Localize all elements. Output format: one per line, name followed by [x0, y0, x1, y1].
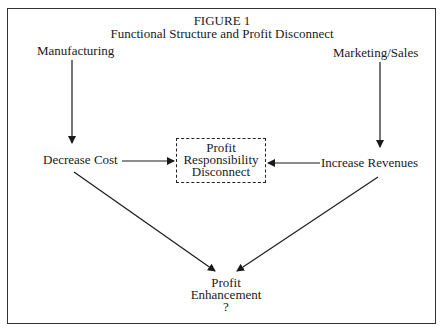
connector-arrows [0, 0, 444, 330]
